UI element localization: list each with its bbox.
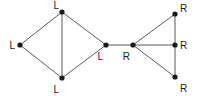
graph-node-l-center[interactable] [103,42,108,47]
node-label-l-bottom: L [53,84,59,95]
graph-edge [62,12,106,45]
graph-node-l-left[interactable] [17,42,22,47]
graph-canvas: LLLLRRRR [0,0,198,96]
edge-layer [20,12,175,78]
node-label-r-mid: R [180,40,187,51]
graph-node-l-top[interactable] [59,9,64,14]
graph-edge [133,14,175,45]
graph-edge [20,45,62,78]
graph-edge [133,45,175,77]
graph-node-r-top[interactable] [172,11,177,16]
graph-node-r-bottom[interactable] [172,74,177,79]
graph-figure: LLLLRRRR [0,0,198,96]
graph-node-r-mid[interactable] [172,42,177,47]
label-layer: LLLLRRRR [9,0,187,95]
graph-edge [20,12,62,45]
node-label-r-bottom: R [180,83,187,94]
node-label-r-center: R [123,51,130,62]
node-label-l-top: L [53,0,59,11]
graph-node-r-center[interactable] [130,42,135,47]
node-label-l-center: L [97,51,103,62]
node-label-l-left: L [9,40,15,51]
node-label-r-top: R [180,3,187,14]
graph-node-l-bottom[interactable] [59,75,64,80]
